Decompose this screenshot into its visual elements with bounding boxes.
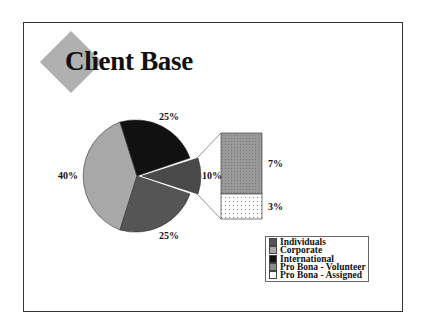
swatch-icon bbox=[269, 263, 277, 271]
swatch-icon bbox=[269, 238, 277, 246]
bar-volunteer bbox=[221, 133, 262, 194]
swatch-icon bbox=[269, 246, 277, 254]
label-international: 25% bbox=[159, 111, 179, 122]
swatch-icon bbox=[269, 271, 277, 279]
swatch-icon bbox=[269, 255, 277, 263]
chart-legend: Individuals Corporate International Pro … bbox=[265, 236, 369, 282]
bar-assigned bbox=[221, 194, 262, 219]
legend-item: Pro Bona - Assigned bbox=[269, 271, 365, 279]
label-individuals: 25% bbox=[159, 230, 179, 241]
label-volunteer: 7% bbox=[268, 158, 283, 169]
label-assigned: 3% bbox=[268, 201, 283, 212]
label-other: 10% bbox=[202, 170, 222, 181]
label-corporate: 40% bbox=[58, 170, 78, 181]
